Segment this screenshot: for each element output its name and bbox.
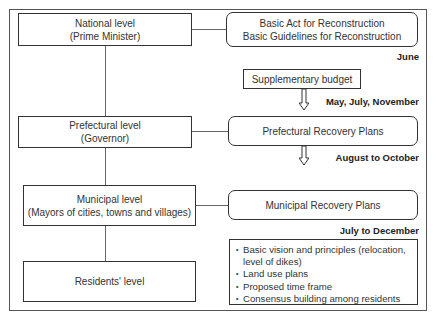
national-level-box: National level (Prime Minister): [18, 13, 192, 46]
municipal-plans-label: Municipal Recovery Plans: [265, 199, 380, 212]
date-prefectural: August to October: [336, 152, 419, 163]
supplementary-budget-box: Supplementary budget: [243, 69, 361, 89]
municipal-level-title: Municipal level: [77, 193, 143, 206]
prefectural-connector: [192, 131, 228, 132]
national-level-title: National level: [75, 17, 135, 30]
municipal-contents-list: Basic vision and principles (relocation,…: [236, 244, 411, 305]
national-level-subtitle: (Prime Minister): [70, 30, 141, 43]
municipal-plans-box: Municipal Recovery Plans: [228, 190, 418, 220]
residents-level-box: Residents' level: [23, 261, 196, 302]
levels-connector: [105, 46, 106, 262]
prefectural-level-box: Prefectural level (Governor): [18, 116, 192, 148]
basic-act-box: Basic Act for Reconstruction Basic Guide…: [226, 12, 418, 47]
municipal-level-box: Municipal level (Mayors of cities, towns…: [23, 185, 196, 226]
date-municipal: July to December: [340, 225, 419, 236]
municipal-level-subtitle: (Mayors of cities, towns and villages): [28, 206, 191, 219]
list-item: Consensus building among residents: [236, 293, 411, 305]
list-item: Land use plans: [236, 268, 411, 280]
supplementary-budget-label: Supplementary budget: [252, 73, 353, 86]
date-june: June: [397, 51, 419, 62]
prefectural-plans-label: Prefectural Recovery Plans: [262, 125, 383, 138]
basic-act-line1: Basic Act for Reconstruction: [259, 17, 384, 30]
basic-act-line2: Basic Guidelines for Reconstruction: [243, 30, 401, 43]
arrow-down-icon: [299, 89, 309, 111]
national-connector: [192, 29, 226, 30]
municipal-contents-box: Basic vision and principles (relocation,…: [229, 239, 418, 305]
prefectural-level-title: Prefectural level: [69, 119, 141, 132]
list-item: Proposed time frame: [236, 281, 411, 293]
prefectural-plans-box: Prefectural Recovery Plans: [228, 116, 418, 146]
residents-level-title: Residents' level: [75, 275, 145, 288]
prefectural-level-subtitle: (Governor): [81, 132, 129, 145]
list-item: Basic vision and principles (relocation,…: [236, 244, 411, 268]
date-budget: May, July, November: [326, 96, 419, 107]
arrow-down-icon: [299, 146, 309, 166]
municipal-connector: [196, 205, 228, 206]
